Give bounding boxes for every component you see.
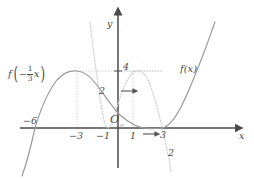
x-axis-label: x: [239, 131, 244, 141]
dotted-curve-label-f: f: [8, 69, 12, 79]
dotted-curve-label-minus: −: [19, 70, 27, 79]
solid-curve-label: f(x): [180, 64, 197, 74]
x-tick-label-3: 3: [160, 130, 166, 140]
dotted-curve-label-var: x: [34, 69, 40, 79]
vertical-shift-label: 2: [168, 148, 174, 158]
fraction-numerator: 1: [28, 65, 33, 73]
right-paren: ): [41, 66, 46, 82]
x-tick-label-neg6: −6: [23, 116, 37, 126]
origin-label: O: [110, 114, 119, 125]
curve-f-minus-one-third-x: [90, 22, 171, 172]
dotted-curve-label: f(−13x): [8, 64, 47, 83]
left-paren: (: [13, 66, 18, 82]
guide-lines: [77, 71, 163, 128]
one-third-fraction: 13: [27, 65, 33, 83]
graph-canvas: [0, 0, 254, 179]
y-axis-label: y: [107, 19, 112, 29]
x-tick-label-1: 1: [130, 131, 136, 141]
horizontal-shift-label: 2: [99, 86, 105, 96]
fraction-denominator: 3: [28, 75, 33, 83]
y-tick-label-4: 4: [123, 62, 129, 72]
x-tick-label-neg1: −1: [96, 131, 110, 141]
x-tick-label-neg3: −3: [69, 131, 83, 141]
graph-figure: f(−13x) f(x) x y O −6 −3 −1 1 3 4 2 2: [0, 0, 254, 179]
